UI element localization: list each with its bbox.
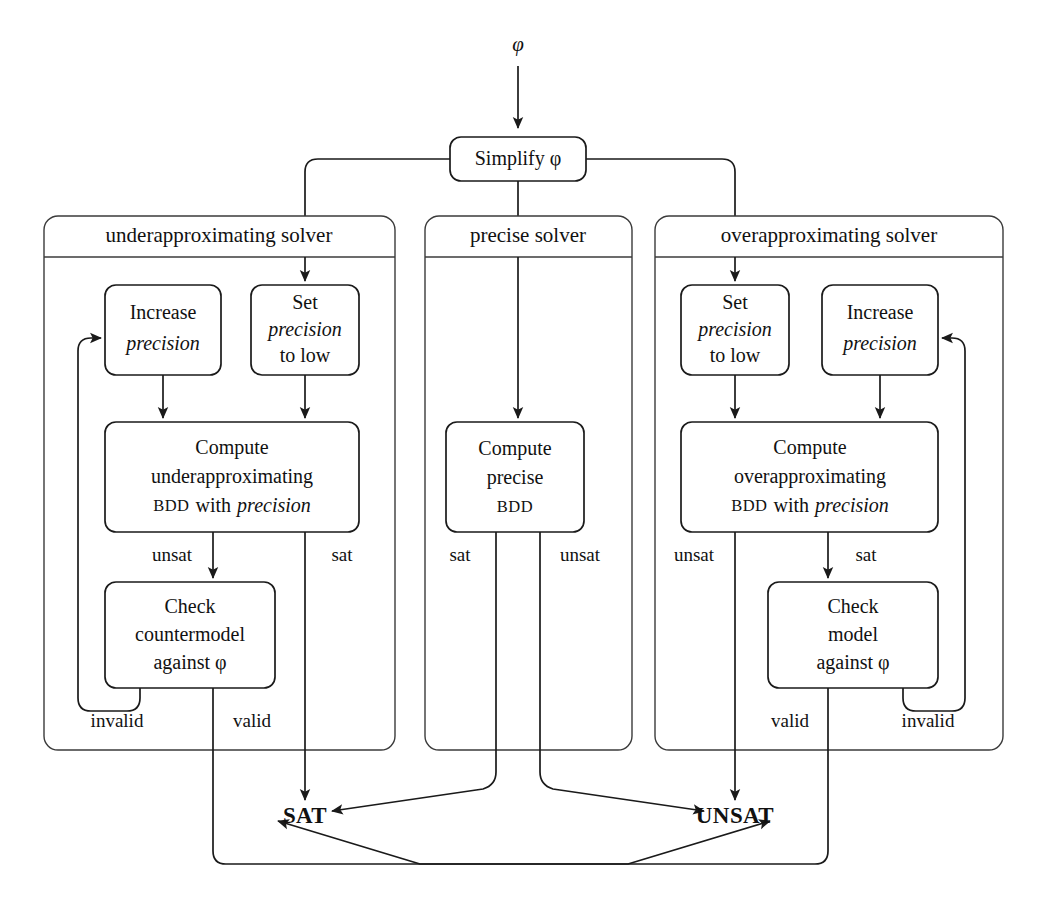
- node-compute-under-with: with: [196, 494, 232, 516]
- node-increase-under-line2: precision: [124, 332, 200, 355]
- edge-label-under-invalid: invalid: [91, 710, 144, 731]
- node-increase-over-line1: Increase: [847, 301, 914, 323]
- edge-label-over-sat: sat: [855, 544, 877, 565]
- node-compute-underapproximating-bdd[interactable]: Compute underapproximating BDDwithprecis…: [105, 422, 359, 532]
- node-increase-under-line1: Increase: [130, 301, 197, 323]
- node-check-over-line1: Check: [827, 595, 878, 617]
- panel-title-under: underapproximating solver: [106, 223, 333, 247]
- node-compute-over-precision: precision: [813, 494, 889, 517]
- node-increase-over-line2: precision: [841, 332, 917, 355]
- node-compute-under-line1: Compute: [195, 436, 268, 459]
- node-compute-under-bdd: BDD: [153, 496, 189, 515]
- node-set-under-line2: precision: [266, 318, 342, 341]
- panel-title-precise: precise solver: [470, 223, 586, 247]
- node-compute-over-line2: overapproximating: [734, 465, 886, 488]
- node-check-under-line2: countermodel: [135, 623, 245, 645]
- node-compute-precise-line3: BDD: [497, 497, 533, 516]
- node-compute-over-line1: Compute: [773, 436, 846, 459]
- edge-label-under-unsat: unsat: [152, 544, 193, 565]
- edge-label-over-unsat: unsat: [674, 544, 715, 565]
- node-compute-under-precision: precision: [235, 494, 311, 517]
- node-set-over-line2: precision: [696, 318, 772, 341]
- node-check-over-line2: model: [828, 623, 878, 645]
- terminal-sat: SAT: [283, 803, 327, 828]
- node-increase-precision-under[interactable]: Increase precision: [105, 285, 221, 375]
- node-set-over-line1: Set: [722, 291, 748, 313]
- node-check-under-line1: Check: [164, 595, 215, 617]
- node-compute-precise-line2: precise: [487, 466, 544, 489]
- edge-label-precise-unsat: unsat: [560, 544, 601, 565]
- node-set-over-line3: to low: [710, 344, 761, 366]
- node-compute-precise-bdd[interactable]: Compute precise BDD: [446, 422, 584, 532]
- edge-label-under-sat: sat: [331, 544, 353, 565]
- node-set-precision-low-under[interactable]: Set precision to low: [251, 285, 359, 375]
- edge-label-over-valid: valid: [771, 710, 809, 731]
- node-set-under-line1: Set: [292, 291, 318, 313]
- node-increase-precision-over[interactable]: Increase precision: [822, 285, 938, 375]
- panel-title-over: overapproximating solver: [721, 223, 937, 247]
- edge-simplify-to-under: [305, 159, 450, 216]
- node-compute-precise-line1: Compute: [478, 437, 551, 460]
- node-compute-over-bdd: BDD: [731, 496, 767, 515]
- node-check-model[interactable]: Check model against φ: [768, 582, 938, 688]
- edge-label-under-valid: valid: [233, 710, 271, 731]
- node-simplify-label: Simplify φ: [475, 147, 562, 170]
- edge-label-over-invalid: invalid: [902, 710, 955, 731]
- node-compute-under-line2: underapproximating: [151, 465, 313, 488]
- node-set-under-line3: to low: [280, 344, 331, 366]
- node-check-under-line3: against φ: [153, 651, 226, 674]
- input-phi-label: φ: [512, 32, 524, 56]
- node-check-countermodel[interactable]: Check countermodel against φ: [105, 582, 275, 688]
- node-check-over-line3: against φ: [816, 651, 889, 674]
- node-compute-overapproximating-bdd[interactable]: Compute overapproximating BDDwithprecisi…: [681, 422, 938, 532]
- edge-simplify-to-over: [586, 159, 735, 216]
- terminal-unsat: UNSAT: [696, 803, 774, 828]
- node-set-precision-low-over[interactable]: Set precision to low: [681, 285, 789, 375]
- node-simplify[interactable]: Simplify φ: [450, 137, 586, 181]
- flowchart-canvas: φ Simplify φ underapproximating solver I…: [0, 0, 1037, 918]
- node-compute-over-with: with: [774, 494, 810, 516]
- edge-label-precise-sat: sat: [449, 544, 471, 565]
